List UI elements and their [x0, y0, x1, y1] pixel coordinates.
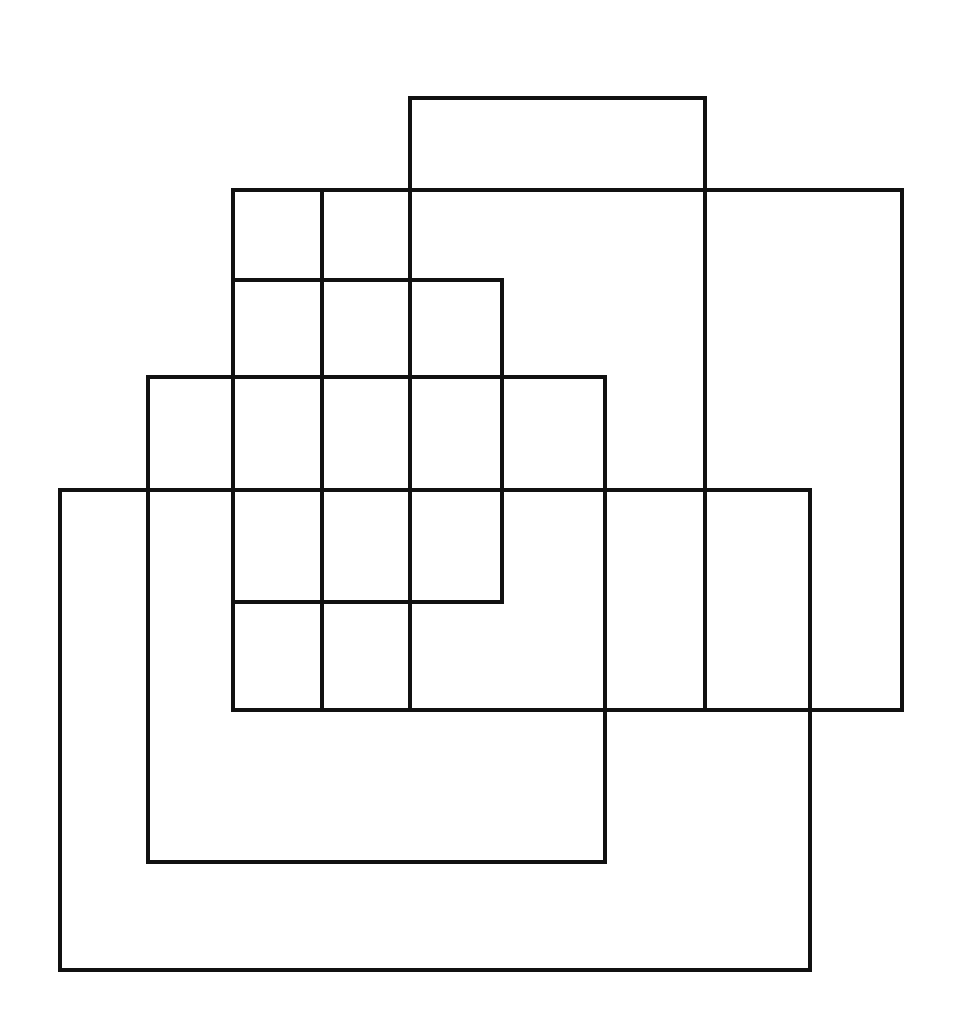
overlapping-rectangles-svg	[0, 0, 956, 1036]
figure-root: Overlapping Rectangles Figure	[0, 0, 956, 1036]
paper-background	[0, 0, 956, 1036]
